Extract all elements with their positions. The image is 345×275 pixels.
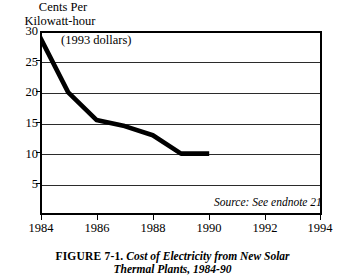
gridline-25 (42, 62, 320, 63)
chart-source-note: Source: See endnote 21 (214, 196, 322, 208)
x-tick-label-1994: 1994 (298, 222, 342, 235)
gridline-20 (42, 93, 320, 94)
x-tick-label-1988: 1988 (131, 222, 175, 235)
gridline-15 (42, 124, 320, 125)
x-tick-label-1990: 1990 (187, 222, 231, 235)
y-tick-mark-20 (36, 91, 40, 92)
y-axis-title: Cents Per Kilowatt-hour (0, 1, 120, 28)
y-tick-label-15: 15 (8, 117, 38, 130)
plot-area (40, 31, 322, 215)
y-tick-mark-25 (36, 60, 40, 61)
figure-number: FIGURE 7-1. (55, 250, 123, 262)
gridline-5 (42, 185, 320, 186)
x-tick-mark-1986 (97, 215, 98, 220)
figure-caption-title-line2: Thermal Plants, 1984-90 (0, 263, 345, 275)
y-tick-label-5: 5 (8, 178, 38, 191)
x-tick-mark-1992 (265, 215, 266, 220)
y-tick-label-10: 10 (8, 148, 38, 161)
x-tick-mark-1984 (41, 215, 42, 220)
gridline-10 (42, 154, 320, 155)
y-tick-label-25: 25 (8, 56, 38, 69)
x-tick-label-1992: 1992 (243, 222, 287, 235)
x-tick-label-1986: 1986 (75, 222, 119, 235)
y-axis-title-line1: Cents Per (6, 1, 120, 15)
x-tick-mark-1994 (320, 215, 321, 220)
x-tick-label-1984: 1984 (19, 222, 63, 235)
y-tick-label-20: 20 (8, 86, 38, 99)
figure-caption: FIGURE 7-1. Cost of Electricity from New… (0, 250, 345, 275)
x-tick-mark-1990 (209, 215, 210, 220)
chart-annotation-dollars: (1993 dollars) (61, 33, 131, 48)
y-tick-mark-15 (36, 122, 40, 123)
x-tick-mark-1988 (153, 215, 154, 220)
figure-caption-title: Cost of Electricity from New Solar (126, 250, 289, 262)
y-tick-label-30: 30 (8, 25, 38, 38)
y-tick-mark-10 (36, 152, 40, 153)
y-tick-mark-5 (36, 183, 40, 184)
